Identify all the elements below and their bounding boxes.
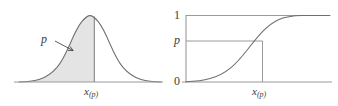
cdf-x-tick-label-subscript: (p) <box>257 90 266 99</box>
cdf-x-tick-label: x(p) <box>252 86 266 99</box>
pdf-x-tick-label-subscript: (p) <box>89 90 98 99</box>
cumulative-curve <box>186 15 330 81</box>
probability-density-panel: p x(p) <box>0 0 169 106</box>
statistics-quantile-figure: p x(p) 1 p 0 x(p) <box>0 0 338 106</box>
cdf-y-tick-label-one: 1 <box>174 9 180 21</box>
cumulative-distribution-panel: 1 p 0 x(p) <box>169 0 338 106</box>
shaded-tail-area <box>19 16 94 82</box>
cdf-y-tick-label-p: p <box>174 34 180 46</box>
cdf-y-tick-label-zero: 0 <box>174 75 180 87</box>
pdf-area-label-p: p <box>41 33 47 45</box>
pdf-x-tick-label: x(p) <box>84 86 98 99</box>
